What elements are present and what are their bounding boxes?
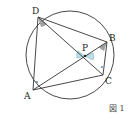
segment-db	[38, 17, 107, 42]
label-a: A	[23, 91, 31, 101]
label-p: P	[82, 43, 88, 53]
label-d: D	[32, 6, 39, 16]
figure-caption: 図 1	[109, 104, 125, 113]
segment-dc	[38, 17, 103, 75]
label-c: C	[105, 76, 112, 86]
label-b: B	[109, 33, 116, 43]
point-p	[84, 55, 86, 57]
segment-ca	[33, 75, 103, 90]
angle-p-right-blue	[85, 53, 94, 60]
segment-ab	[33, 42, 107, 90]
angle-a-dot	[36, 81, 38, 83]
angle-c-dot	[101, 66, 103, 68]
geometry-figure: D B P C A 図 1	[0, 0, 129, 114]
